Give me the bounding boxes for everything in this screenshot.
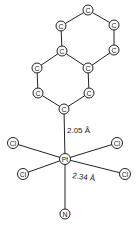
bond-pt-cl1	[13, 143, 65, 159]
atom-symbol: C	[35, 90, 40, 97]
bond-pt-cl2	[65, 143, 117, 159]
atom-pt: Pt	[60, 154, 71, 165]
atom-c8: C	[33, 88, 43, 98]
atom-symbol: N	[62, 211, 67, 218]
atom-c10: C	[59, 104, 69, 114]
bond-pt-cl3	[23, 159, 65, 174]
labels-layer: 2.05 Å2.34 Å	[67, 126, 97, 183]
atom-symbol: C	[34, 65, 39, 72]
atom-symbol: C	[59, 48, 64, 55]
atom-symbol: C	[58, 23, 63, 30]
atom-symbol: C	[85, 65, 90, 72]
atom-symbol: C	[85, 7, 90, 14]
atom-c2: C	[56, 21, 66, 31]
atom-symbol: Cl	[114, 140, 121, 147]
atom-symbol: Cl	[20, 171, 27, 178]
atom-c4: C	[109, 45, 119, 55]
molecular-structure-diagram: CCCCCCCCCCPtClClClClN 2.05 Å2.34 Å	[0, 0, 139, 225]
bond-length-pt-cl-label: 2.34 Å	[72, 171, 97, 183]
atom-c5: C	[57, 46, 67, 56]
atom-symbol: Pt	[62, 156, 69, 163]
atom-c3: C	[109, 20, 119, 30]
atoms-layer: CCCCCCCCCCPtClClClClN	[8, 5, 131, 219]
atom-symbol: C	[111, 22, 116, 29]
atom-symbol: C	[111, 47, 116, 54]
atom-symbol: Cl	[10, 140, 17, 147]
bond-c10-pt	[64, 109, 65, 159]
bonds-layer	[13, 10, 125, 214]
bond-length-pt-c-label: 2.05 Å	[67, 126, 91, 135]
atom-symbol: Cl	[122, 171, 129, 178]
atom-n: N	[60, 209, 70, 219]
atom-cl4: Cl	[120, 169, 131, 180]
atom-cl1: Cl	[8, 138, 19, 149]
atom-symbol: C	[86, 90, 91, 97]
atom-symbol: C	[61, 106, 66, 113]
atom-c6: C	[83, 63, 93, 73]
atom-c9: C	[84, 88, 94, 98]
atom-cl3: Cl	[18, 169, 29, 180]
atom-c7: C	[32, 63, 42, 73]
atom-c1: C	[83, 5, 93, 15]
atom-cl2: Cl	[112, 138, 123, 149]
